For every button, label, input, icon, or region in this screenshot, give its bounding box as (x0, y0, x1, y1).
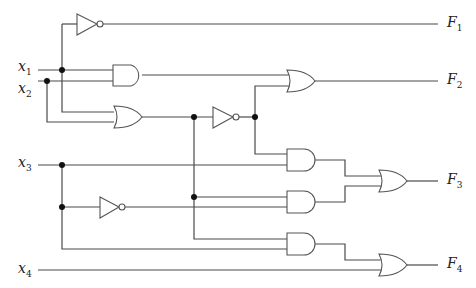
and-gate-3 (287, 191, 315, 213)
and-gate-2 (287, 149, 315, 171)
and-gate-4 (287, 233, 315, 255)
not-gate-3 (100, 197, 125, 218)
input-label-x4: x4 (18, 260, 32, 279)
and-gate-1 (113, 65, 139, 86)
input-label-x3: x3 (18, 154, 32, 173)
not-gate-2 (213, 107, 239, 128)
circuit-svg (0, 0, 476, 288)
or-gate-3 (379, 170, 407, 192)
not-gate-1 (77, 14, 103, 35)
output-label-f2: F2 (447, 71, 462, 90)
output-label-f1: F1 (447, 14, 462, 33)
junction-dots (44, 67, 258, 210)
logic-circuit-diagram: x1 x2 x3 x4 F1 F2 F3 F4 (0, 0, 476, 288)
input-label-x1: x1 (18, 58, 32, 77)
wires (38, 24, 438, 270)
or-gate-1 (114, 106, 142, 128)
or-gate-4 (379, 254, 407, 276)
input-label-x2: x2 (18, 80, 32, 99)
output-label-f3: F3 (447, 171, 462, 190)
output-label-f4: F4 (447, 255, 462, 274)
or-gate-2 (287, 70, 315, 92)
